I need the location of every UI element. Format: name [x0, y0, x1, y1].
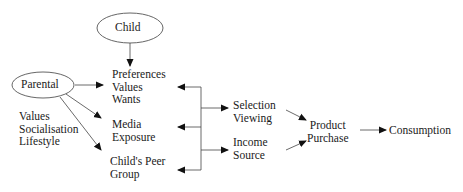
child-label: Child — [115, 21, 141, 34]
parental-factors-node: Values Socialisation Lifestyle — [19, 110, 78, 148]
preferences-line-2: Values — [112, 81, 166, 94]
peer-line-1: Child's Peer — [110, 155, 165, 168]
media-line-1: Media — [112, 118, 155, 131]
peer-group-node: Child's Peer Group — [110, 155, 165, 180]
preferences-line-3: Wants — [112, 93, 166, 106]
income-line-2: Source — [233, 149, 267, 162]
edge-selection-product — [286, 110, 306, 120]
selection-line-2: Viewing — [233, 112, 276, 125]
product-line-2: Purchase — [307, 132, 349, 145]
media-line-2: Exposure — [112, 131, 155, 144]
parental-factor-socialisation: Socialisation — [19, 123, 78, 136]
income-line-1: Income — [233, 136, 267, 149]
diagram-connectors — [0, 0, 463, 192]
parental-factor-values: Values — [19, 110, 78, 123]
child-node: Child — [115, 21, 141, 34]
consumption-node: Consumption — [389, 124, 451, 137]
peer-line-2: Group — [110, 168, 165, 181]
selection-line-1: Selection — [233, 99, 276, 112]
consumption-label: Consumption — [389, 124, 451, 137]
edge-income-product — [286, 141, 306, 150]
preferences-line-1: Preferences — [112, 68, 166, 81]
product-purchase-node: Product Purchase — [307, 119, 349, 144]
parental-factor-lifestyle: Lifestyle — [19, 135, 78, 148]
parental-label: Parental — [21, 78, 59, 91]
selection-viewing-node: Selection Viewing — [233, 99, 276, 124]
income-source-node: Income Source — [233, 136, 267, 161]
parental-node: Parental — [21, 78, 59, 91]
preferences-node: Preferences Values Wants — [112, 68, 166, 106]
media-exposure-node: Media Exposure — [112, 118, 155, 143]
product-line-1: Product — [307, 119, 349, 132]
